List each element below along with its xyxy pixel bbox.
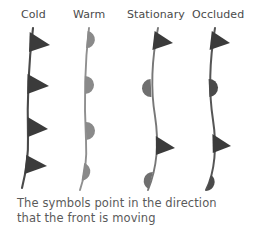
caption-line-2: that the front is moving	[17, 211, 156, 225]
stationary-front-semicircle-icon	[142, 79, 151, 97]
cold-front-triangle-icon	[25, 155, 47, 174]
occluded-front-triangle-icon	[210, 31, 230, 50]
occluded-front-line	[206, 28, 215, 190]
cold-front-triangle-icon	[27, 74, 49, 94]
cold-front-triangle-icon	[28, 117, 48, 137]
warm-front-semicircle-icon	[86, 31, 95, 48]
occluded-front-semicircle-icon	[206, 175, 214, 191]
weather-front-symbols-diagram: Cold Warm Stationary Occluded	[0, 0, 254, 235]
stationary-front-line	[148, 28, 158, 190]
warm-front-semicircle-icon	[86, 122, 95, 140]
warm-front-semicircle-icon	[82, 163, 91, 181]
caption-line-1: The symbols point in the direction	[17, 196, 217, 210]
cold-front-triangle-icon	[29, 32, 50, 52]
stationary-front-symbol-group	[142, 28, 175, 190]
stationary-front-triangle-icon	[152, 31, 173, 50]
stationary-front-triangle-icon	[156, 136, 175, 155]
occluded-front-triangle-icon	[212, 134, 231, 153]
warm-front-semicircle-icon	[85, 76, 94, 94]
occluded-front-semicircle-icon	[209, 79, 218, 97]
occluded-front-symbol-group	[206, 28, 231, 191]
warm-front-symbol-group	[80, 28, 95, 190]
cold-front-symbol-group	[22, 28, 50, 188]
